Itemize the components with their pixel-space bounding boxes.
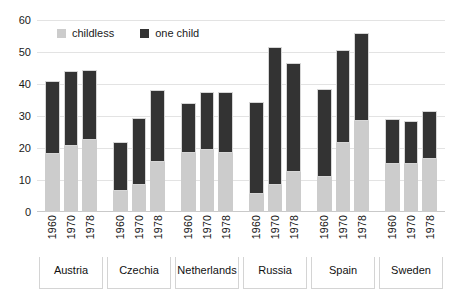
bar-segment-one-child[interactable] [64,71,79,146]
country-group-cell: Czechia [107,257,171,289]
bar-stack[interactable] [218,92,233,212]
bar-segment-childless[interactable] [354,121,369,212]
country-group-cell: Spain [311,257,375,289]
bar-segment-one-child[interactable] [286,63,301,172]
bar-stack[interactable] [385,119,400,212]
bar-segment-childless[interactable] [404,164,419,212]
y-axis-tick-label: 10 [19,175,37,186]
x-axis-year-label: 1970 [338,215,349,239]
chart-legend: childlessone child [57,27,199,39]
x-axis-year-label: 1978 [425,215,436,239]
x-axis-year-label: 1970 [66,215,77,239]
bar-segment-one-child[interactable] [354,33,369,121]
x-axis-year-label: 1960 [115,215,126,239]
x-axis-year-label: 1978 [153,215,164,239]
bar-segment-one-child[interactable] [336,50,351,143]
bar-stack[interactable] [64,71,79,212]
x-axis-year-label: 1978 [221,215,232,239]
bar-stack[interactable] [181,103,196,212]
country-group-label: Netherlands [176,265,238,276]
bar-segment-one-child[interactable] [404,121,419,164]
y-axis-tick-label: 60 [19,15,37,26]
country-group-label: Spain [312,265,374,276]
bar-segment-one-child[interactable] [181,103,196,153]
y-axis-tick-label: 20 [19,143,37,154]
bar-segment-childless[interactable] [218,153,233,212]
country-group-label: Czechia [108,265,170,276]
bar-segment-childless[interactable] [336,143,351,212]
bar-stack[interactable] [132,118,147,212]
bar-stack[interactable] [249,102,264,212]
x-axis-year-label: 1978 [357,215,368,239]
bar-segment-one-child[interactable] [385,119,400,164]
bar-segment-childless[interactable] [385,164,400,212]
x-axis-year-label: 1960 [183,215,194,239]
bar-segment-one-child[interactable] [317,89,332,177]
bar-segment-childless[interactable] [200,150,215,212]
year-tick-row: 1960197019781960197019781960197019781960… [37,213,445,257]
bar-stack[interactable] [336,50,351,212]
bar-segment-childless[interactable] [422,159,437,212]
bar-stack[interactable] [286,63,301,212]
legend-swatch-icon [140,29,149,38]
x-axis-year-label: 1970 [406,215,417,239]
bar-segment-childless[interactable] [181,153,196,212]
legend-entry[interactable]: childless [57,27,114,39]
country-group-cell: Austria [39,257,103,289]
legend-label: childless [72,27,114,39]
bar-segment-childless[interactable] [45,154,60,212]
bar-segment-one-child[interactable] [132,118,147,185]
country-group-cell: Russia [243,257,307,289]
bar-stack[interactable] [113,142,128,212]
x-axis-year-label: 1960 [319,215,330,239]
bar-segment-one-child[interactable] [422,111,437,159]
bars-layer [37,20,445,212]
bar-segment-one-child[interactable] [113,142,128,192]
legend-entry[interactable]: one child [140,27,199,39]
bar-segment-one-child[interactable] [82,70,97,140]
country-group-label: Austria [40,265,102,276]
x-axis-year-label: 1960 [251,215,262,239]
bar-stack[interactable] [422,111,437,212]
country-group-label: Russia [244,265,306,276]
bar-segment-childless[interactable] [268,185,283,212]
country-group-row: AustriaCzechiaNetherlandsRussiaSpainSwed… [37,257,445,289]
bar-segment-childless[interactable] [132,185,147,212]
country-group-label: Sweden [380,265,442,276]
bar-stack[interactable] [317,89,332,212]
bar-stack[interactable] [150,90,165,212]
x-axis-year-label: 1960 [47,215,58,239]
bar-segment-one-child[interactable] [249,102,264,195]
country-group-cell: Sweden [379,257,443,289]
y-axis-tick-label: 0 [25,207,37,218]
bar-segment-childless[interactable] [317,177,332,212]
bar-segment-one-child[interactable] [45,81,60,155]
x-axis-year-label: 1970 [202,215,213,239]
bar-segment-one-child[interactable] [268,47,283,185]
bar-segment-childless[interactable] [82,140,97,212]
bar-segment-one-child[interactable] [150,90,165,162]
bar-stack[interactable] [268,47,283,212]
bar-stack[interactable] [404,121,419,212]
x-axis: 1960197019781960197019781960197019781960… [37,213,445,289]
bar-stack[interactable] [354,33,369,212]
y-axis-tick-label: 50 [19,47,37,58]
x-axis-year-label: 1978 [289,215,300,239]
stacked-bar-chart: 0102030405060 childlessone child 1960197… [0,0,453,291]
plot-area: 0102030405060 [37,20,445,212]
bar-stack[interactable] [200,92,215,212]
bar-segment-childless[interactable] [150,162,165,212]
y-axis-tick-label: 40 [19,79,37,90]
x-axis-year-label: 1970 [134,215,145,239]
bar-stack[interactable] [45,81,60,212]
legend-label: one child [155,27,199,39]
legend-swatch-icon [57,29,66,38]
x-axis-year-label: 1978 [85,215,96,239]
bar-segment-childless[interactable] [64,146,79,212]
bar-stack[interactable] [82,70,97,212]
bar-segment-childless[interactable] [249,194,264,212]
bar-segment-one-child[interactable] [218,92,233,153]
bar-segment-childless[interactable] [113,191,128,212]
bar-segment-childless[interactable] [286,172,301,212]
bar-segment-one-child[interactable] [200,92,215,150]
